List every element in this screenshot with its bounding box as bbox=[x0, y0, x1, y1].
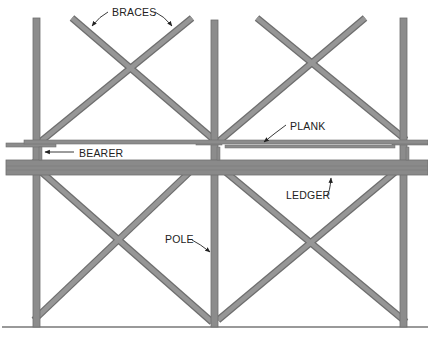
plank bbox=[24, 140, 428, 144]
plank-leader bbox=[264, 125, 286, 142]
braces-leader-right bbox=[155, 12, 172, 26]
label-plank: PLANK bbox=[290, 120, 325, 132]
braces-leader-left bbox=[92, 12, 108, 26]
label-braces: BRACES bbox=[112, 6, 156, 18]
scaffold-diagram: BRACES BEARER PLANK LEDGER POLE bbox=[0, 0, 428, 340]
label-pole-group: POLE bbox=[165, 233, 210, 252]
ledger bbox=[6, 160, 428, 175]
label-plank-group: PLANK bbox=[264, 120, 325, 142]
label-ledger-group: LEDGER bbox=[286, 178, 331, 201]
label-pole: POLE bbox=[165, 233, 194, 245]
label-bearer-group: BEARER bbox=[45, 147, 124, 159]
label-bearer: BEARER bbox=[79, 147, 124, 159]
label-ledger: LEDGER bbox=[286, 189, 331, 201]
label-braces-group: BRACES bbox=[92, 6, 172, 26]
pole-leader bbox=[192, 240, 210, 252]
